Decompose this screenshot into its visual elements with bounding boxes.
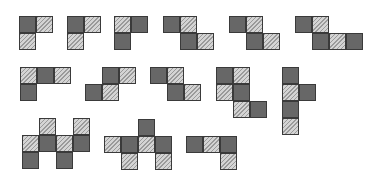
dark-square xyxy=(220,136,237,153)
hatched-square xyxy=(233,101,250,118)
hatched-square xyxy=(282,118,299,135)
hatched-square xyxy=(246,16,263,33)
dark-square xyxy=(180,33,197,50)
dark-square xyxy=(229,16,246,33)
dark-square xyxy=(299,84,316,101)
dark-square xyxy=(114,33,131,50)
hatched-square xyxy=(197,33,214,50)
dark-square xyxy=(233,84,250,101)
dark-square xyxy=(163,16,180,33)
hatched-square xyxy=(56,135,73,152)
dark-square xyxy=(346,33,363,50)
dark-square xyxy=(295,16,312,33)
dark-square xyxy=(216,67,233,84)
dark-square xyxy=(20,84,37,101)
dark-square xyxy=(131,16,148,33)
hatched-square xyxy=(216,84,233,101)
dark-square xyxy=(67,16,84,33)
hatched-square xyxy=(84,16,101,33)
dark-square xyxy=(56,152,73,169)
dark-square xyxy=(102,67,119,84)
dark-square xyxy=(22,152,39,169)
hatched-square xyxy=(138,136,155,153)
dark-square xyxy=(39,135,56,152)
hatched-square xyxy=(203,136,220,153)
hatched-square xyxy=(54,67,71,84)
dark-square xyxy=(167,84,184,101)
hatched-square xyxy=(312,16,329,33)
hatched-square xyxy=(121,153,138,170)
dark-square xyxy=(282,67,299,84)
dark-square xyxy=(121,136,138,153)
hatched-square xyxy=(180,16,197,33)
dark-square xyxy=(37,67,54,84)
hatched-square xyxy=(220,153,237,170)
hatched-square xyxy=(102,84,119,101)
dark-square xyxy=(150,67,167,84)
hatched-square xyxy=(114,16,131,33)
dark-square xyxy=(155,136,172,153)
hatched-square xyxy=(20,67,37,84)
hatched-square xyxy=(22,135,39,152)
dark-square xyxy=(250,101,267,118)
hatched-square xyxy=(36,16,53,33)
hatched-square xyxy=(184,84,201,101)
hatched-square xyxy=(282,84,299,101)
hatched-square xyxy=(119,67,136,84)
dark-square xyxy=(312,33,329,50)
hatched-square xyxy=(155,153,172,170)
hatched-square xyxy=(19,33,36,50)
hatched-square xyxy=(73,118,90,135)
hatched-square xyxy=(39,118,56,135)
dark-square xyxy=(138,119,155,136)
hatched-square xyxy=(67,33,84,50)
hatched-square xyxy=(329,33,346,50)
hatched-square xyxy=(233,67,250,84)
hatched-square xyxy=(167,67,184,84)
dark-square xyxy=(73,135,90,152)
dark-square xyxy=(85,84,102,101)
dark-square xyxy=(186,136,203,153)
dark-square xyxy=(19,16,36,33)
dark-square xyxy=(246,33,263,50)
dark-square xyxy=(282,101,299,118)
hatched-square xyxy=(104,136,121,153)
hatched-square xyxy=(263,33,280,50)
